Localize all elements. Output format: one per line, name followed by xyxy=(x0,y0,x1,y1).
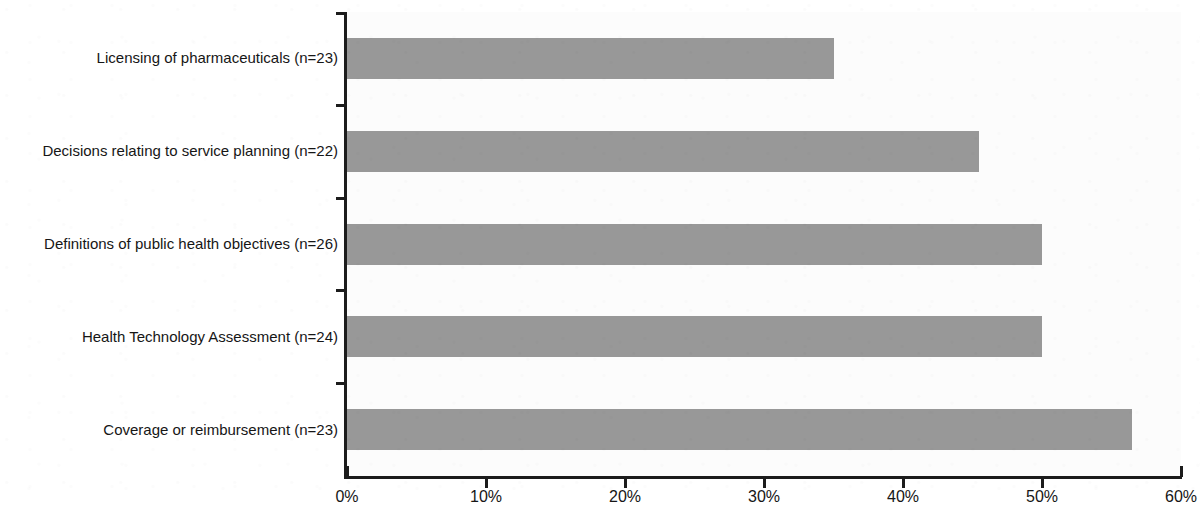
bar xyxy=(347,131,979,172)
category-label: Licensing of pharmaceuticals (n=23) xyxy=(0,48,338,67)
x-axis-tick-label: 0% xyxy=(307,487,387,507)
bar xyxy=(347,316,1042,357)
x-axis-tick-label: 60% xyxy=(1141,487,1200,507)
bar xyxy=(347,224,1042,265)
x-axis-end-cap xyxy=(1180,466,1183,477)
category-label: Definitions of public health objectives … xyxy=(0,234,338,253)
y-axis-tick xyxy=(336,12,345,15)
category-label: Coverage or reimbursement (n=23) xyxy=(0,420,338,439)
x-axis-tick-label: 20% xyxy=(585,487,665,507)
category-label: Decisions relating to service planning (… xyxy=(0,141,338,160)
x-axis-tick-label: 30% xyxy=(724,487,804,507)
x-axis-tick-label: 40% xyxy=(863,487,943,507)
bar xyxy=(347,409,1132,450)
x-axis-tick-label: 10% xyxy=(446,487,526,507)
y-axis-tick xyxy=(336,289,345,292)
y-axis-tick xyxy=(336,197,345,200)
y-axis-tick xyxy=(336,382,345,385)
x-axis-tick-label: 50% xyxy=(1002,487,1082,507)
bar xyxy=(347,38,834,79)
horizontal-bar-chart: Licensing of pharmaceuticals (n=23)Decis… xyxy=(0,0,1200,511)
x-axis-end-cap xyxy=(346,466,349,477)
y-axis-tick xyxy=(336,104,345,107)
category-label: Health Technology Assessment (n=24) xyxy=(0,327,338,346)
